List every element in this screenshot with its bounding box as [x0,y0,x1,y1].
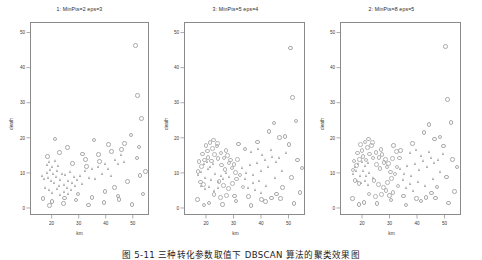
svg-text:40: 40 [103,221,109,226]
data-point [442,152,444,155]
data-point [96,152,101,157]
data-point [51,191,53,194]
data-point [241,185,246,190]
data-point [110,174,112,177]
data-point [71,181,73,184]
data-point [410,141,415,146]
data-point [112,185,117,190]
data-point [379,192,384,197]
data-point [288,46,293,51]
data-point [209,159,214,164]
plot-area [30,22,149,215]
data-point [368,171,370,174]
data-point [230,181,235,186]
data-point [139,116,144,121]
data-point [217,186,219,189]
svg-text:40: 40 [258,221,264,226]
data-point [274,192,279,197]
data-point [246,194,251,199]
data-point [260,191,262,194]
data-point [234,199,239,204]
data-point [256,161,258,164]
data-point [362,169,364,172]
data-point [391,143,396,148]
data-point [222,177,224,180]
data-point [135,93,140,98]
data-point [101,172,103,175]
data-point [133,43,138,48]
data-point [195,197,200,202]
data-point [109,149,114,154]
data-point [450,157,455,162]
data-point [130,202,135,207]
data-point [401,194,406,199]
data-point [103,189,108,194]
data-point [280,185,285,190]
data-point [57,164,59,167]
scatter-points [185,23,304,214]
data-point [433,196,438,201]
figure-container: 1: MinPts=2 eps=3 2030405001020304050 de… [0,0,482,240]
svg-text:10: 10 [330,171,336,176]
data-point [90,195,95,200]
data-point [367,183,369,186]
svg-text:0: 0 [22,206,25,211]
data-point [61,201,66,206]
data-point [396,184,401,189]
data-point [399,167,401,170]
data-point [278,156,280,159]
data-point [403,172,405,175]
data-point [210,178,212,181]
data-point [102,200,107,205]
data-point [271,155,273,158]
data-point [51,165,53,168]
data-point [428,150,430,153]
data-point [410,174,412,177]
data-point [390,156,395,161]
data-point [393,172,398,177]
data-point [267,165,269,168]
panel-title: 2: MinPts=8 eps=5 [314,6,469,12]
data-point [289,175,294,180]
data-point [53,137,58,142]
data-point [220,202,225,207]
data-point [357,181,362,186]
data-point [216,156,221,161]
svg-text:30: 30 [76,221,82,226]
data-point [278,196,283,201]
data-point [53,181,55,184]
data-point [412,189,414,192]
data-point [84,169,86,172]
data-point [56,169,58,172]
data-point [120,153,122,156]
data-point [49,168,51,171]
data-point [44,186,46,189]
data-point [370,140,375,145]
panel-title: 1: MinPts=2 eps=3 [2,6,157,12]
data-point [258,179,260,182]
data-point [274,176,276,179]
data-point [455,165,460,170]
svg-text:20: 20 [330,136,336,141]
data-point [219,151,224,156]
svg-text:50: 50 [330,30,336,35]
data-point [285,151,287,154]
data-point [218,195,223,200]
data-point [141,192,146,197]
data-point [207,201,212,206]
data-point [362,200,367,205]
data-point [364,164,366,167]
svg-text:20: 20 [203,221,209,226]
data-point [257,147,259,150]
data-point [437,158,439,161]
y-axis-label: death [320,118,325,130]
data-point [197,159,202,164]
data-point [263,199,268,204]
svg-text:30: 30 [231,221,237,226]
data-point [294,119,299,124]
data-point [69,170,71,173]
data-point [404,203,409,208]
plot-area [340,22,461,215]
data-point [204,187,206,190]
data-point [129,133,134,138]
